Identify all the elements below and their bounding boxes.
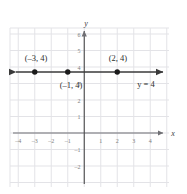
data-point-b [65,69,70,74]
point-label-c: (2, 4) [109,53,128,63]
x-tick-label-4: 4 [149,138,152,144]
point-label-b: (–1, 4) [60,80,83,90]
y-tick-label-neg1: –1 [74,147,81,153]
coordinate-plane-figure: –4 –3 –2 –1 1 2 3 4 6 5 4 3 2 1 –1 –2 x … [0,0,187,194]
y-tick-label-4: 4 [78,65,81,71]
y-axis-name: y [83,19,88,28]
equation-label: y = 4 [137,79,155,89]
x-tick-label-neg1: –1 [64,138,71,144]
y-tick-label-1: 1 [78,114,81,120]
graph-canvas: –4 –3 –2 –1 1 2 3 4 6 5 4 3 2 1 –1 –2 x … [0,0,187,194]
x-tick-label-2: 2 [116,138,119,144]
x-tick-label-3: 3 [132,138,135,144]
x-tick-label-neg2: –2 [47,138,54,144]
y-tick-label-2: 2 [78,98,81,104]
x-tick-label-neg4: –4 [14,138,21,144]
data-point-c [115,69,120,74]
x-axis-name: x [170,129,175,138]
point-label-a: (–3, 4) [25,53,48,63]
y-tick-label-neg2: –2 [74,164,81,170]
data-point-a [32,69,37,74]
x-tick-label-neg3: –3 [31,138,38,144]
y-tick-label-6: 6 [78,32,81,38]
y-tick-label-5: 5 [78,48,81,54]
figure-background [0,0,187,194]
x-tick-label-1: 1 [99,138,102,144]
